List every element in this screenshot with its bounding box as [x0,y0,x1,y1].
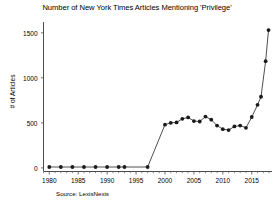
data-point [123,165,127,169]
data-point [59,165,63,169]
x-axis-tick-label: 2005 [187,177,201,184]
y-axis-tick-label: 500 [0,119,38,126]
axis-spines [44,22,273,172]
data-point [209,118,213,122]
data-point [117,165,121,169]
data-markers [47,28,270,169]
data-point [267,28,271,32]
y-axis-tick-label: 0 [0,164,38,171]
data-point [94,165,98,169]
y-axis-tick-label: 1500 [0,29,38,36]
data-point [146,165,150,169]
data-point [233,125,237,129]
data-point [180,117,184,121]
data-point [82,165,86,169]
data-point [198,120,202,124]
data-point [71,165,75,169]
data-point [244,126,248,130]
data-point [47,165,51,169]
y-axis-tick-label: 1000 [0,74,38,81]
chart-figure: Number of New York Times Articles Mentio… [0,0,274,210]
x-axis-tick-label: 2010 [216,177,230,184]
x-axis-tick-label: 1990 [100,177,114,184]
x-axis-tick-label: 1995 [129,177,143,184]
data-point [250,115,254,119]
data-point [175,121,179,125]
data-point [169,121,173,125]
data-point [192,119,196,123]
data-point [256,103,260,107]
data-point [204,115,208,119]
x-axis-tick-label: 1980 [42,177,56,184]
data-point [186,116,190,120]
data-point [238,124,242,128]
x-axis-tick-label: 2015 [245,177,259,184]
data-point [264,59,268,63]
data-point [227,128,231,132]
x-axis-tick-label: 2000 [158,177,172,184]
data-point [215,124,219,128]
data-point [163,123,167,127]
data-point [105,165,109,169]
data-line [49,30,268,167]
x-axis-tick-label: 1985 [71,177,85,184]
data-point [259,95,263,99]
data-point [221,127,225,131]
source-note: Source: LexisNexis [56,190,109,197]
